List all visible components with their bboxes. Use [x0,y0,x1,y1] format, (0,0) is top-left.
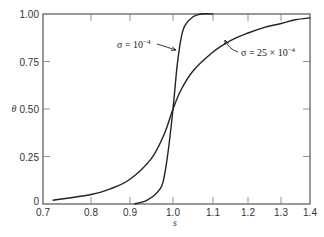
annotation-sigma-25e-4: σ = 25 × 10−4 [241,46,296,58]
x-tick-label: 0.7 [36,207,50,218]
y-tick-label: 1.00 [20,9,40,20]
curve-sigma-25e-4 [53,18,310,200]
x-axis-label: s [173,217,177,228]
y-tick-label: 0.50 [20,104,40,115]
x-tick-label: 1.1 [206,207,220,218]
plot-frame [43,14,310,204]
x-tick-label: 0.8 [84,207,98,218]
annotations: σ = 10−4σ = 25 × 10−4 [117,38,296,58]
annotation-sigma-1e-4: σ = 10−4 [117,38,151,50]
chart: 0.70.80.91.01.11.21.31.4 00.250.500.751.… [0,0,324,237]
y-axis-label: θ [12,103,17,114]
y-tick-label: 0.25 [20,152,40,163]
x-tick-label: 1.4 [303,207,317,218]
y-tick-label: 0.75 [20,57,40,68]
curves [53,14,310,204]
x-axis-ticks: 0.70.80.91.01.11.21.31.4 [36,14,317,218]
x-tick-label: 1.3 [274,207,288,218]
y-tick-label: 0 [33,196,39,207]
x-tick-label: 0.9 [123,207,137,218]
x-tick-label: 1.2 [241,207,255,218]
y-axis-ticks: 00.250.500.751.00 [20,9,310,207]
